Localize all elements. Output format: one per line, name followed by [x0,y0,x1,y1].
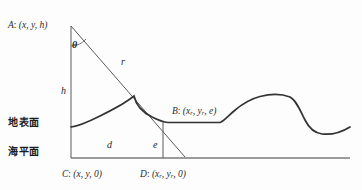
label-point-C-coords: (x, y, 0) [73,169,102,179]
label-point-A-coords: (x, y, h) [19,20,48,30]
label-point-A-colon: : [14,20,17,30]
label-point-D-name: D [140,169,147,179]
label-angle-theta: θ [72,40,77,50]
label-point-D-tail: , 0) [173,169,186,179]
slant-range-ray [71,26,185,157]
label-height-h: h [61,86,66,96]
label-point-D-colon: : [147,169,150,179]
label-ground-surface: 地表面 [8,118,40,128]
label-point-C-colon: : [68,169,71,179]
label-point-C: C: (x, y, 0) [62,170,102,180]
label-point-B-tail: , e) [204,106,216,116]
label-sea-level: 海平面 [8,147,40,157]
diagram-canvas: A: (x, y, h) θ r h d e B: (xr, yr, e) C:… [0,0,362,190]
label-point-A: A: (x, y, h) [8,21,47,31]
geometry-diagram [0,0,362,190]
label-point-B-mid: , y [193,106,202,116]
label-distance-d: d [107,140,112,150]
label-slant-range-r: r [121,57,125,67]
label-point-B: B: (xr, yr, e) [172,107,216,117]
label-point-D-mid: , y [162,169,171,179]
label-point-B-colon: : [178,106,181,116]
label-point-D: D: (xr, yr, 0) [140,170,186,180]
label-elevation-e: e [153,140,157,150]
